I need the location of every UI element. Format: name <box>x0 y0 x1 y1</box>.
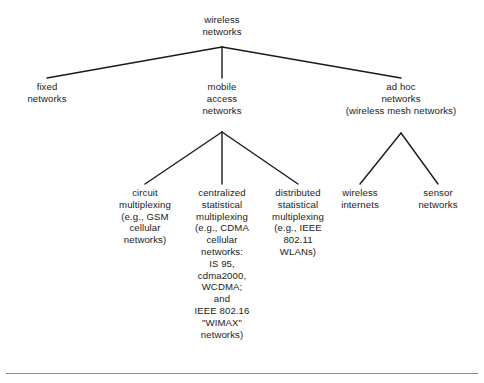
node-sensor-networks: sensor networks <box>400 187 476 211</box>
node-wireless-networks: wireless networks <box>162 14 282 38</box>
edge-root-to-fixed <box>47 47 222 78</box>
node-ad-hoc-networks: ad hoc networks (wireless mesh networks) <box>318 81 484 116</box>
edge-root-to-adhoc <box>222 47 401 78</box>
edge-adhoc-to-wireless-internets <box>360 133 401 184</box>
node-centralized-statistical-multiplexing: centralized statistical multiplexing (e.… <box>182 187 262 340</box>
node-wireless-internets: wireless internets <box>322 187 398 211</box>
edge-adhoc-to-sensor <box>401 133 438 184</box>
tree-diagram: wireless networks fixed networks mobile … <box>0 0 484 383</box>
node-mobile-access-networks: mobile access networks <box>162 81 282 116</box>
edge-mobile-to-circuit <box>145 132 222 184</box>
node-fixed-networks: fixed networks <box>0 81 102 105</box>
bottom-divider <box>6 373 478 374</box>
edge-mobile-to-distributed <box>222 132 298 184</box>
node-circuit-multiplexing: circuit multiplexing (e.g., GSM cellular… <box>107 187 183 246</box>
